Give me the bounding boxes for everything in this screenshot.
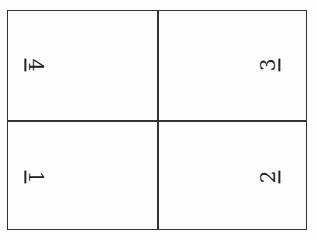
horizontal-divider xyxy=(7,120,307,122)
cell-label-top-right: 3 xyxy=(258,59,278,72)
cell-label-bottom-right: 2 xyxy=(258,171,278,184)
cell-label-top-left: 4 xyxy=(26,59,46,72)
cell-label-bottom-left: 1 xyxy=(26,171,46,184)
